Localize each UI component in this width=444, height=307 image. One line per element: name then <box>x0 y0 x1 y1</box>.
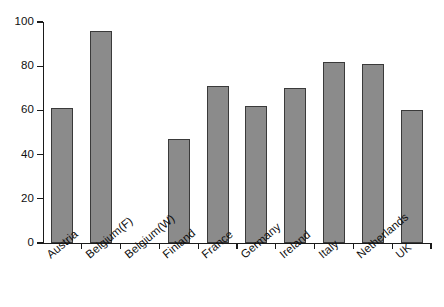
x-tick-mark <box>236 243 237 249</box>
x-tick-mark <box>314 243 315 249</box>
plot-area <box>43 22 431 243</box>
bar <box>51 108 73 243</box>
bar-slot <box>315 22 354 243</box>
bar-chart: 020406080100 AustriaBelgium(F)Belgium(W)… <box>0 0 444 307</box>
y-tick-label: 60 <box>21 104 34 116</box>
y-tick-label: 0 <box>28 237 35 249</box>
y-tick-label: 20 <box>21 193 34 205</box>
x-tick-mark <box>430 243 431 249</box>
bar-slot <box>159 22 198 243</box>
y-tick-label: 80 <box>21 60 34 72</box>
x-tick-mark <box>275 243 276 249</box>
x-tick-label: UK <box>394 242 414 261</box>
bar-slot <box>121 22 160 243</box>
bar <box>362 64 384 243</box>
y-tick-label: 40 <box>21 149 34 161</box>
bar-slot <box>237 22 276 243</box>
bar-slot <box>276 22 315 243</box>
x-tick-mark <box>81 243 82 249</box>
x-tick-mark <box>392 243 393 249</box>
bar-slot <box>392 22 431 243</box>
bar <box>90 31 112 243</box>
bar-slot <box>353 22 392 243</box>
x-tick-mark <box>120 243 121 249</box>
x-tick-mark <box>198 243 199 249</box>
bar-slot <box>43 22 82 243</box>
bar <box>323 62 345 243</box>
x-tick-mark <box>159 243 160 249</box>
y-tick-label: 100 <box>15 16 35 28</box>
bar-slot <box>82 22 121 243</box>
bar <box>207 86 229 243</box>
bar <box>245 106 267 243</box>
x-tick-mark <box>353 243 354 249</box>
bar-slot <box>198 22 237 243</box>
bar <box>284 88 306 243</box>
bar <box>168 139 190 243</box>
